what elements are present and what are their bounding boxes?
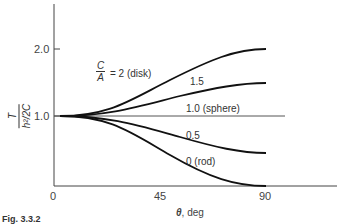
label-sphere: 1.0 (sphere) bbox=[186, 104, 240, 114]
x-axis-unit: , deg bbox=[182, 207, 204, 218]
fraction-denominator: A bbox=[96, 72, 105, 83]
fraction-numerator: C bbox=[96, 60, 105, 72]
label-disk: = 2 (disk) bbox=[110, 69, 151, 79]
figure-caption: Fig. 3.3.2 bbox=[2, 214, 41, 224]
y-tick-label-1: 1.0 bbox=[34, 111, 49, 122]
x-tick-label-45: 45 bbox=[154, 191, 166, 202]
label-1-5: 1.5 bbox=[190, 77, 204, 87]
x-tick-label-0: 0 bbox=[50, 191, 56, 202]
curve-0-5 bbox=[60, 116, 266, 153]
y-label-denominator: h²/2C bbox=[20, 104, 32, 128]
y-tick-label-2: 2.0 bbox=[34, 44, 49, 55]
label-0-5: 0.5 bbox=[186, 131, 200, 141]
y-axis-label: T h²/2C bbox=[4, 90, 34, 142]
x-axis-label: θ, deg bbox=[176, 208, 204, 218]
label-rod: 0 (rod) bbox=[186, 157, 215, 167]
y-label-numerator: T bbox=[7, 104, 20, 128]
ratio-fraction: C A bbox=[96, 60, 105, 83]
x-tick-label-90: 90 bbox=[259, 191, 271, 202]
